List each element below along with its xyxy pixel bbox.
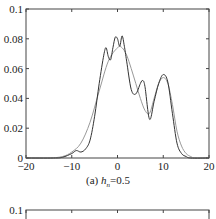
series-line	[26, 36, 209, 158]
y-tick-label: 0.08	[4, 33, 24, 45]
y-tick-label: 0.1	[9, 204, 23, 216]
x-tick-label: 20	[204, 160, 216, 172]
y-tick-label: 0.06	[4, 63, 24, 75]
y-tick-label: 0	[18, 152, 24, 164]
series-line	[26, 46, 209, 158]
y-tick-label: 0.04	[4, 92, 24, 104]
y-tick-label: 0.02	[4, 122, 23, 134]
figure-caption: (a) hn=0.5	[0, 174, 216, 189]
x-tick-label: −10	[63, 160, 81, 172]
tick-labels: −20−100102000.020.040.060.080.1	[4, 3, 215, 172]
x-tick-label: 10	[158, 160, 170, 172]
second-plot-axes: 0.1	[9, 204, 209, 219]
plot-series	[26, 36, 209, 158]
plot-frame	[26, 9, 209, 158]
x-tick-label: 0	[115, 160, 121, 172]
plot-axes	[26, 9, 209, 158]
y-tick-label: 0.1	[9, 3, 23, 15]
